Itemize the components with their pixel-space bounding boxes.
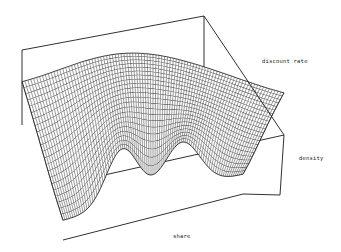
box-right-vertical-edge	[280, 135, 284, 195]
z-axis-label: density	[299, 155, 324, 162]
surface-plot: discount rate density share	[0, 0, 341, 252]
density-surface	[22, 53, 284, 220]
box-right-floor-edge	[243, 194, 280, 195]
y-axis-label: discount rate	[262, 58, 308, 64]
x-axis-label: share	[173, 233, 191, 239]
